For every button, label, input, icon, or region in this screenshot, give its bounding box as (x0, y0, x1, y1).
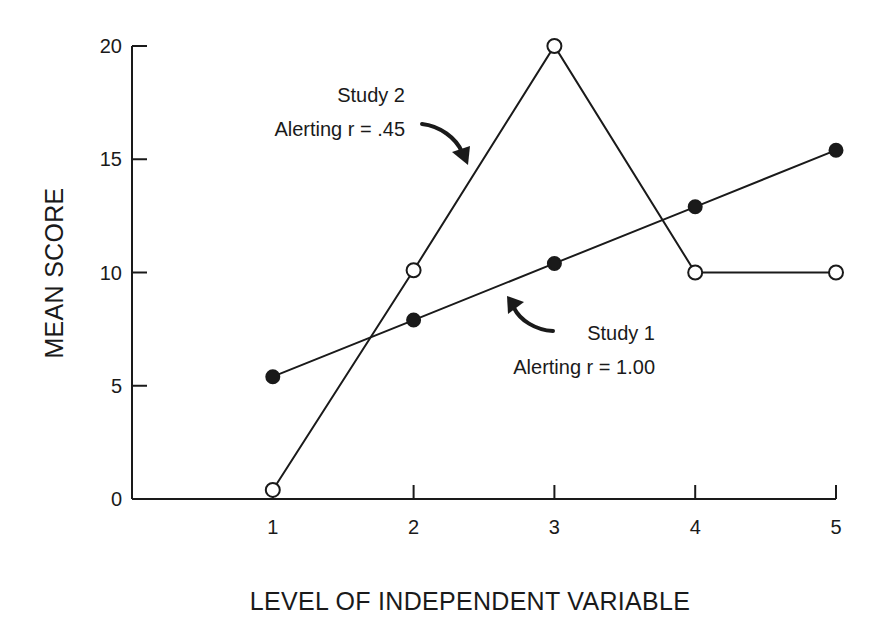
y-tick-label: 20 (100, 35, 122, 57)
filled-circle-marker (266, 370, 279, 383)
x-axis-title: LEVEL OF INDEPENDENT VARIABLE (250, 587, 690, 615)
x-tick-label: 3 (549, 516, 560, 538)
filled-circle-marker (407, 314, 420, 327)
open-circle-marker (547, 39, 561, 53)
open-circle-marker (829, 266, 843, 280)
x-tick-label: 5 (830, 516, 841, 538)
study2-annotation-r: Alerting r = .45 (274, 118, 405, 140)
open-circle-marker (688, 266, 702, 280)
filled-circle-marker (689, 200, 702, 213)
y-axis-ticks: 05101520 (100, 35, 147, 510)
x-tick-label: 1 (267, 516, 278, 538)
y-tick-label: 10 (100, 262, 122, 284)
x-axis-ticks: 12345 (267, 485, 841, 538)
y-tick-label: 15 (100, 148, 122, 170)
study-1-series (266, 144, 842, 384)
filled-circle-marker (548, 257, 561, 270)
line-chart: 05101520 12345 Study 2 Alerting r = .45 … (0, 0, 875, 624)
study2-arrow-icon (422, 124, 470, 165)
y-tick-label: 5 (111, 375, 122, 397)
study1-annotation-r: Alerting r = 1.00 (513, 356, 655, 378)
y-axis-title: MEAN SCORE (40, 187, 68, 358)
y-tick-label: 0 (111, 488, 122, 510)
filled-circle-marker (830, 144, 843, 157)
study1-annotation-title: Study 1 (587, 322, 655, 344)
data-series (266, 39, 843, 497)
x-tick-label: 4 (690, 516, 701, 538)
open-circle-marker (266, 483, 280, 497)
x-tick-label: 2 (408, 516, 419, 538)
open-circle-marker (407, 263, 421, 277)
study1-arrow-icon (507, 296, 553, 331)
study2-annotation-title: Study 2 (337, 84, 405, 106)
